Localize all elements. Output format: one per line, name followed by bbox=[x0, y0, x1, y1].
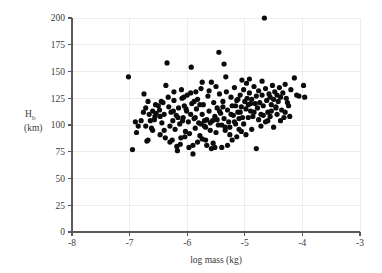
data-point bbox=[171, 89, 176, 94]
data-point bbox=[261, 103, 266, 108]
data-point bbox=[262, 15, 267, 20]
data-point bbox=[271, 97, 276, 102]
data-point bbox=[188, 112, 193, 117]
data-point bbox=[148, 118, 153, 123]
data-point bbox=[162, 112, 167, 117]
x-tick-label: -7 bbox=[126, 238, 134, 248]
data-point bbox=[193, 126, 198, 131]
data-point bbox=[249, 127, 254, 132]
data-point bbox=[213, 130, 218, 135]
data-point bbox=[301, 83, 306, 88]
y-axis-title-main: Hb bbox=[25, 109, 36, 122]
data-point bbox=[217, 108, 222, 113]
x-tick-label: -3 bbox=[356, 238, 364, 248]
data-point bbox=[287, 114, 292, 119]
data-point bbox=[247, 76, 252, 81]
data-point bbox=[171, 108, 176, 113]
data-point bbox=[152, 114, 157, 119]
data-point bbox=[254, 94, 259, 99]
data-point bbox=[200, 80, 205, 85]
data-point bbox=[227, 132, 232, 137]
data-point bbox=[150, 128, 155, 133]
data-point bbox=[183, 106, 188, 111]
x-axis-tick-labels: -8-7-6-5-4-3 bbox=[68, 238, 364, 248]
data-point bbox=[241, 121, 246, 126]
data-point bbox=[251, 110, 256, 115]
data-point bbox=[180, 118, 185, 123]
data-point bbox=[221, 61, 226, 66]
data-point bbox=[223, 74, 228, 79]
data-point bbox=[187, 131, 192, 136]
data-point bbox=[243, 132, 248, 137]
y-axis-tick-labels: 0255075100125150175200 bbox=[51, 13, 66, 237]
x-tick-label: -5 bbox=[241, 238, 249, 248]
data-point bbox=[233, 103, 238, 108]
data-point bbox=[269, 108, 274, 113]
data-point bbox=[164, 60, 169, 65]
data-point bbox=[245, 96, 250, 101]
data-point bbox=[277, 85, 282, 90]
data-point bbox=[280, 90, 285, 95]
data-point bbox=[209, 80, 214, 85]
data-point bbox=[219, 122, 224, 127]
y-axis-title-units: (km) bbox=[24, 123, 42, 134]
y-axis-title-subscript: b bbox=[32, 114, 36, 122]
y-tick-label: 175 bbox=[51, 40, 66, 50]
data-point bbox=[278, 118, 283, 123]
data-point bbox=[256, 88, 261, 93]
scatter-plot: -8-7-6-5-4-3 0255075100125150175200 log … bbox=[0, 0, 382, 273]
data-point bbox=[173, 127, 178, 132]
data-point bbox=[197, 102, 202, 107]
data-point bbox=[171, 98, 176, 103]
data-point bbox=[234, 134, 239, 139]
data-point bbox=[188, 90, 193, 95]
data-point bbox=[206, 88, 211, 93]
data-point bbox=[263, 86, 268, 91]
data-point bbox=[159, 99, 164, 104]
data-point bbox=[193, 115, 198, 120]
data-point bbox=[238, 110, 243, 115]
data-point bbox=[274, 112, 279, 117]
chart-figure: -8-7-6-5-4-3 0255075100125150175200 log … bbox=[0, 0, 382, 273]
data-point bbox=[163, 83, 168, 88]
data-point bbox=[179, 87, 184, 92]
data-point bbox=[248, 101, 253, 106]
y-tick-label: 125 bbox=[51, 94, 66, 104]
data-point bbox=[221, 116, 226, 121]
data-point bbox=[190, 151, 195, 156]
data-point bbox=[254, 146, 259, 151]
data-point bbox=[220, 99, 225, 104]
data-point bbox=[198, 86, 203, 91]
data-point bbox=[166, 104, 171, 109]
data-point bbox=[181, 95, 186, 100]
data-point bbox=[273, 105, 278, 110]
data-point bbox=[153, 102, 158, 107]
data-point bbox=[212, 145, 217, 150]
data-point bbox=[162, 128, 167, 133]
data-point bbox=[170, 137, 175, 142]
data-point bbox=[261, 113, 266, 118]
data-point bbox=[178, 142, 183, 147]
data-point bbox=[283, 110, 288, 115]
data-point bbox=[225, 143, 230, 148]
y-tick-label: 200 bbox=[51, 13, 66, 23]
data-point bbox=[223, 128, 228, 133]
data-point bbox=[259, 92, 264, 97]
data-point bbox=[215, 117, 220, 122]
data-point bbox=[226, 119, 231, 124]
data-point bbox=[139, 118, 144, 123]
data-point bbox=[244, 81, 249, 86]
data-point bbox=[166, 95, 171, 100]
data-point bbox=[227, 125, 232, 130]
data-point bbox=[141, 91, 146, 96]
data-point bbox=[176, 105, 181, 110]
data-point bbox=[239, 77, 244, 82]
data-point bbox=[205, 94, 210, 99]
data-point bbox=[236, 116, 241, 121]
data-point bbox=[193, 89, 198, 94]
data-point bbox=[224, 89, 229, 94]
data-point bbox=[136, 123, 141, 128]
data-point bbox=[167, 123, 172, 128]
data-point bbox=[143, 123, 148, 128]
data-point bbox=[130, 147, 135, 152]
